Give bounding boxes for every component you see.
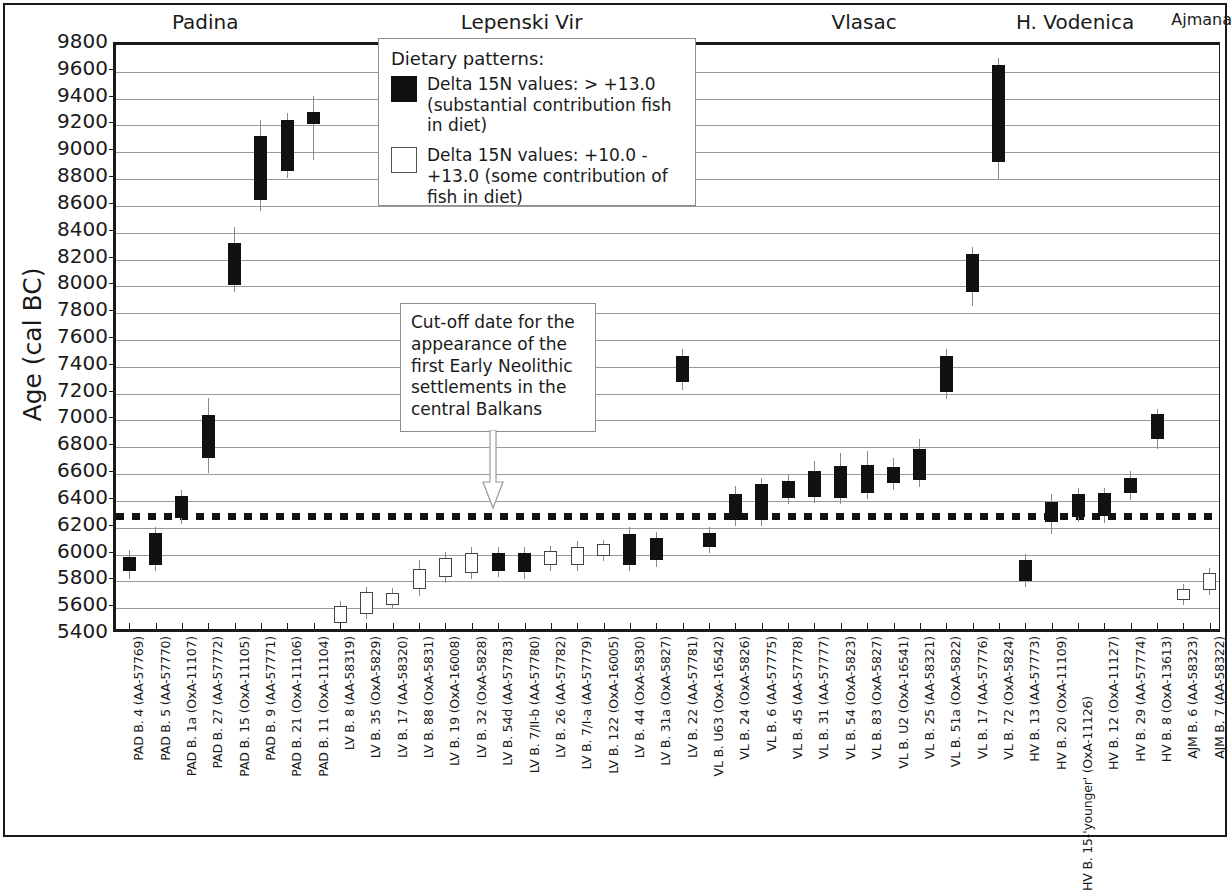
x-tick-label: PAD B. 21 (OxA-11106) — [289, 636, 304, 777]
data-point-candle[interactable] — [353, 45, 379, 629]
x-tick-mark — [577, 623, 578, 630]
data-point-candle[interactable] — [696, 45, 722, 629]
x-tick-mark — [182, 623, 183, 630]
data-point-candle[interactable] — [248, 45, 274, 629]
x-tick-label: HV B. 29 (AA-57774) — [1133, 636, 1148, 762]
x-tick-label: PAD B. 4 (AA-57769) — [131, 636, 146, 761]
x-tick-mark — [393, 623, 394, 630]
x-tick-mark — [999, 623, 1000, 630]
site-header-padina: Padina — [172, 10, 239, 34]
date-range-box — [729, 494, 742, 519]
x-tick-label: PAD B. 11 (OxA-11104) — [316, 636, 331, 777]
x-tick-label: PAD B. 9 (AA-57771) — [263, 636, 278, 761]
data-point-candle[interactable] — [933, 45, 959, 629]
data-point-candle[interactable] — [1012, 45, 1038, 629]
date-range-box — [597, 544, 610, 555]
date-range-box — [808, 471, 821, 496]
data-point-candle[interactable] — [775, 45, 801, 629]
x-tick-mark — [867, 623, 868, 630]
x-tick-mark — [1210, 623, 1211, 630]
y-tick-label: 8800 — [0, 163, 108, 187]
date-range-box — [518, 553, 531, 572]
data-point-candle[interactable] — [1144, 45, 1170, 629]
data-point-candle[interactable] — [959, 45, 985, 629]
legend-entry-open: Delta 15N values: +10.0 - +13.0 (some co… — [391, 145, 683, 207]
x-tick-label: HV B. 15-'younger' (OxA-11126) — [1080, 696, 1095, 891]
x-tick-mark — [156, 623, 157, 630]
x-tick-label: VL B. 72 (OxA-5824) — [1001, 636, 1016, 760]
date-range-box — [281, 120, 294, 171]
x-tick-mark — [709, 623, 710, 630]
date-range-box — [492, 553, 505, 570]
x-tick-label: VL B. 24 (OxA-5826) — [737, 636, 752, 760]
data-point-candle[interactable] — [169, 45, 195, 629]
site-header-vlasac: Vlasac — [832, 10, 897, 34]
date-range-box — [386, 593, 399, 605]
x-tick-mark — [287, 623, 288, 630]
data-point-candle[interactable] — [1118, 45, 1144, 629]
x-tick-label: VL B. 25 (AA-58321) — [922, 636, 937, 759]
x-tick-label: PAD B. 1a (OxA-11107) — [184, 636, 199, 776]
site-header-lepenski-vir: Lepenski Vir — [461, 10, 583, 34]
date-range-box — [202, 415, 215, 458]
date-range-box — [334, 606, 347, 623]
date-range-box — [1045, 502, 1058, 523]
x-tick-mark — [894, 623, 895, 630]
y-tick-label: 5800 — [0, 565, 108, 589]
site-header-ajmana: Ajmana — [1171, 10, 1232, 29]
site-header-band: PadinaLepenski VirVlasacH. VodenicaAjman… — [113, 2, 1229, 40]
data-point-candle[interactable] — [116, 45, 142, 629]
data-point-candle[interactable] — [1091, 45, 1117, 629]
date-range-box — [703, 533, 716, 547]
x-tick-label: LV B. 7/II-b (AA-57780) — [527, 636, 542, 773]
data-point-candle[interactable] — [1170, 45, 1196, 629]
data-point-candle[interactable] — [907, 45, 933, 629]
data-point-candle[interactable] — [195, 45, 221, 629]
x-tick-mark — [419, 623, 420, 630]
date-range-box — [861, 465, 874, 492]
y-tick-label: 9800 — [0, 29, 108, 53]
data-point-candle[interactable] — [880, 45, 906, 629]
data-point-candle[interactable] — [986, 45, 1012, 629]
data-point-candle[interactable] — [1197, 45, 1223, 629]
data-point-candle[interactable] — [221, 45, 247, 629]
x-tick-label: VL B. U63 (OxA-16542) — [711, 636, 726, 776]
data-point-candle[interactable] — [722, 45, 748, 629]
x-tick-mark — [1157, 623, 1158, 630]
data-point-candle[interactable] — [801, 45, 827, 629]
data-point-candle[interactable] — [854, 45, 880, 629]
legend-swatch-open-icon — [391, 147, 417, 173]
date-range-box — [149, 533, 162, 565]
date-range-box — [782, 481, 795, 498]
date-range-box — [1019, 560, 1032, 581]
y-tick-label: 8600 — [0, 190, 108, 214]
date-range-box — [175, 496, 188, 519]
legend-title: Dietary patterns: — [391, 48, 683, 69]
data-point-candle[interactable] — [1065, 45, 1091, 629]
x-tick-label: VL B. 51a (OxA-5822) — [948, 636, 963, 767]
y-tick-label: 9000 — [0, 136, 108, 160]
date-range-box — [887, 467, 900, 484]
x-tick-mark — [1104, 623, 1105, 630]
data-point-candle[interactable] — [142, 45, 168, 629]
data-point-candle[interactable] — [301, 45, 327, 629]
date-range-box — [992, 65, 1005, 162]
x-tick-mark — [604, 623, 605, 630]
date-range-box — [254, 136, 267, 200]
data-point-candle[interactable] — [327, 45, 353, 629]
data-point-candle[interactable] — [828, 45, 854, 629]
data-point-candle[interactable] — [1039, 45, 1065, 629]
y-tick-label: 8400 — [0, 217, 108, 241]
date-range-box — [465, 553, 478, 572]
x-tick-label: LV B. 8 (AA-58319) — [342, 636, 357, 750]
x-tick-mark — [973, 623, 974, 630]
date-range-box — [623, 534, 636, 566]
x-tick-label: VL B. 17 (AA-57776) — [975, 636, 990, 759]
date-range-box — [123, 557, 136, 571]
whisker-line — [313, 96, 314, 160]
x-tick-label: LV B. 22 (AA-57781) — [685, 636, 700, 758]
data-point-candle[interactable] — [274, 45, 300, 629]
x-tick-mark — [814, 623, 815, 630]
data-point-candle[interactable] — [749, 45, 775, 629]
